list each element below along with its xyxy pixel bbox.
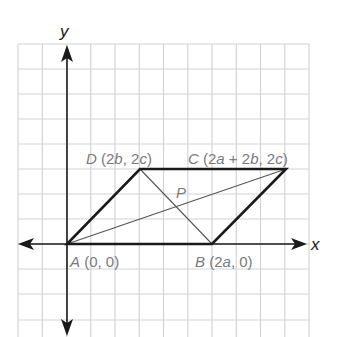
coordinate-diagram: y x D (2b, 2c) C (2a + 2b, 2c) P A (0, 0… <box>0 0 356 337</box>
intersection-label-p: P <box>176 184 186 201</box>
vertex-label-c: C (2a + 2b, 2c) <box>188 150 288 167</box>
vertex-label-a: A (0, 0) <box>69 253 119 270</box>
y-axis <box>61 45 73 336</box>
x-axis-label: x <box>310 235 320 254</box>
vertex-label-d: D (2b, 2c) <box>86 150 152 167</box>
y-axis-label: y <box>59 22 70 41</box>
diagonals <box>67 169 286 244</box>
diagonal-bd <box>140 169 212 244</box>
vertex-label-b: B (2a, 0) <box>195 253 253 270</box>
